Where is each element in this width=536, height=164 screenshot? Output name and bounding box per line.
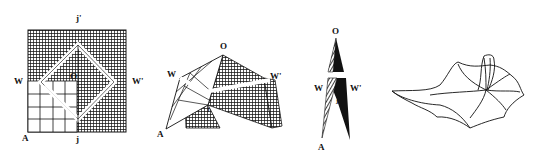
label-o: O: [220, 42, 227, 51]
label-w: W: [167, 70, 176, 79]
label-w-prime: W': [350, 84, 362, 93]
label-j-prime: j': [76, 14, 82, 23]
figure-draped-cloth: [392, 55, 524, 128]
label-j: j: [76, 135, 79, 144]
figure-flat-grid: [28, 30, 126, 132]
label-o: O: [70, 72, 77, 81]
label-w-prime: W': [132, 77, 144, 86]
figure-tent-fold: [166, 55, 282, 129]
label-o: O: [332, 27, 339, 36]
label-a: A: [157, 130, 164, 139]
label-j: j: [336, 98, 338, 105]
label-a: A: [22, 134, 29, 143]
folding-diagram: [0, 0, 536, 164]
label-j: j: [207, 106, 209, 113]
label-a: A: [318, 143, 325, 152]
label-w: W: [14, 77, 23, 86]
label-w-prime: W': [270, 72, 282, 81]
label-w: W: [314, 84, 323, 93]
figure-narrow-fold: [322, 38, 350, 140]
